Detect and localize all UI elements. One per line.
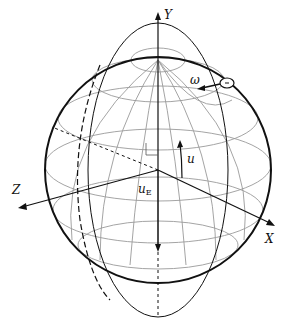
uE-label: uE bbox=[138, 183, 152, 197]
hidden-meridian bbox=[78, 65, 111, 300]
omega-label: ω bbox=[190, 74, 200, 86]
right-angle-marker bbox=[146, 143, 158, 155]
sphere-diagram bbox=[0, 0, 284, 324]
uE-arrow-icon bbox=[155, 244, 161, 252]
u-arc bbox=[180, 143, 182, 178]
uE-subscript: E bbox=[146, 188, 152, 197]
y-axis-label: Y bbox=[164, 9, 172, 21]
z-axis-arrow-icon bbox=[18, 203, 27, 210]
uE-main: u bbox=[138, 182, 146, 196]
x-axis-label: X bbox=[265, 233, 274, 245]
x-axis-arrow-icon bbox=[266, 219, 275, 226]
u-arrow-icon bbox=[177, 140, 183, 148]
u-label: u bbox=[187, 153, 195, 165]
y-axis-arrow-icon bbox=[155, 12, 161, 20]
z-axis-label: Z bbox=[12, 184, 20, 196]
